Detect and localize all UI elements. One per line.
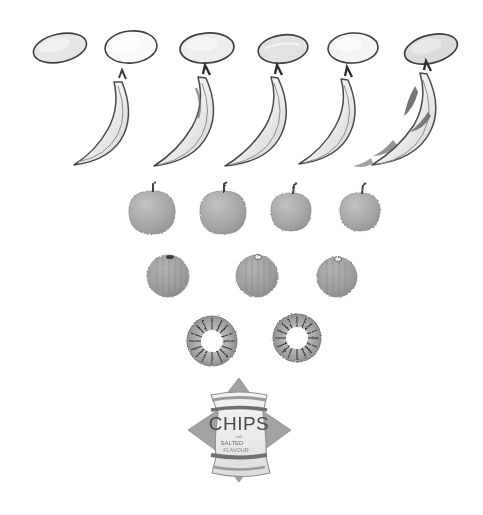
chips-sub-line-3: FLAVOUR — [223, 447, 249, 453]
chips-brand-text: CHIPS — [209, 413, 270, 434]
orange-1 — [147, 255, 189, 297]
orange-3 — [317, 257, 357, 298]
sketch-svg: CHIPS with SALTED FLAVOUR — [0, 0, 483, 515]
chips-sub-line-1: with — [235, 434, 242, 439]
row-oranges — [147, 255, 357, 298]
kiwi-slice-2 — [273, 314, 321, 362]
orange-2 — [236, 255, 278, 298]
kiwi-slice-1 — [187, 316, 237, 366]
chips-sub-line-2: SALTED — [221, 440, 245, 446]
sketch-canvas: CHIPS with SALTED FLAVOUR — [0, 0, 483, 515]
